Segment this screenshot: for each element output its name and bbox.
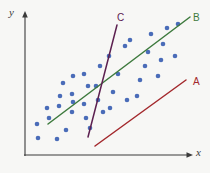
scatter-point [123, 44, 128, 49]
line-b-label: B [193, 13, 200, 23]
scatter-point [135, 94, 140, 99]
scatter-point [156, 74, 161, 79]
scatter-point [36, 136, 41, 141]
scatter-point [57, 104, 62, 109]
y-axis-label: y [9, 7, 14, 18]
line-c-label: C [117, 13, 124, 23]
scatter-point [101, 110, 106, 115]
scatter-point [35, 122, 40, 127]
scatter-point [149, 32, 154, 37]
scatter-point [47, 116, 52, 121]
scatter-point [98, 64, 103, 69]
scatter-point [82, 72, 87, 77]
scatter-point [64, 128, 69, 133]
scatter-point [55, 137, 60, 142]
scatter-point [111, 90, 116, 95]
scatter-point [71, 74, 76, 79]
scatter-point [128, 38, 133, 43]
scatter-point [58, 94, 63, 99]
plot-canvas [0, 0, 210, 173]
scatter-point [45, 106, 50, 111]
scatter-plot-figure: y x A B C [0, 0, 210, 173]
scatter-point [159, 58, 164, 63]
scatter-point [161, 42, 166, 47]
line-a-label: A [193, 77, 200, 87]
scatter-point [125, 98, 130, 103]
y-axis-arrowhead [22, 11, 28, 18]
scatter-point-group [35, 22, 181, 142]
scatter-point [108, 106, 113, 111]
scatter-point [61, 81, 66, 86]
scatter-point [70, 110, 75, 115]
y-axis [22, 11, 28, 156]
scatter-point [138, 78, 143, 83]
scatter-point [84, 116, 89, 121]
x-axis-arrowhead [187, 152, 194, 158]
x-axis-label: x [196, 147, 201, 158]
scatter-point [165, 26, 170, 31]
scatter-point [86, 84, 91, 89]
scatter-point [82, 102, 87, 107]
scatter-point [143, 64, 148, 69]
line-C [88, 25, 117, 137]
fit-line-group [48, 17, 190, 146]
line-B [48, 17, 190, 124]
scatter-point [70, 92, 75, 97]
scatter-point [173, 54, 178, 59]
x-axis [24, 152, 193, 158]
line-A [95, 80, 186, 146]
